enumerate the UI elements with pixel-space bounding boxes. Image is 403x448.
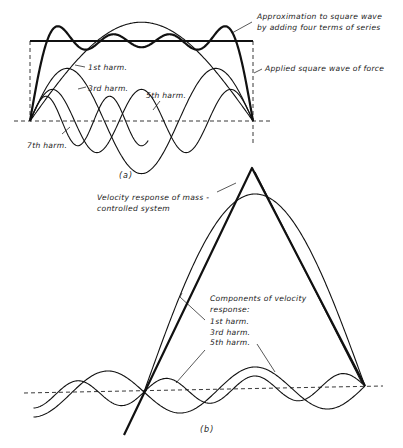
components-label-1: Components of velocity bbox=[210, 294, 307, 303]
first-harm-label: 1st harm. bbox=[88, 63, 127, 72]
velocity-response-label-2: controlled system bbox=[97, 204, 170, 213]
approximation-label-1: Approximation to square wave bbox=[256, 12, 382, 21]
fifth-harm-component-leader bbox=[176, 350, 205, 383]
velocity-right-double-line bbox=[255, 172, 362, 383]
velocity-first-harmonic-curve bbox=[144, 194, 365, 392]
first-harm-leader bbox=[75, 65, 85, 67]
velocity-response-label-1: Velocity response of mass - bbox=[97, 193, 209, 202]
components-first-harm-label: 1st harm. bbox=[210, 317, 249, 326]
seventh-harmonic-curve bbox=[30, 96, 148, 145]
components-third-harm-label: 3rd harm. bbox=[210, 328, 250, 337]
part-b-caption: (b) bbox=[200, 425, 214, 434]
seventh-harm-label: 7th harm. bbox=[27, 141, 67, 150]
fifth-harm-label: 5th harm. bbox=[146, 91, 186, 100]
part-a-diagram: Approximation to square wave by adding f… bbox=[14, 12, 384, 180]
first-harm-component-leader bbox=[180, 293, 205, 320]
third-harm-leader bbox=[78, 87, 86, 89]
approximation-leader bbox=[232, 22, 252, 33]
seventh-harm-leader bbox=[62, 127, 70, 134]
first-harmonic-curve bbox=[30, 22, 253, 121]
third-harm-label: 3rd harm. bbox=[88, 84, 128, 93]
velocity-response-leader bbox=[217, 183, 236, 192]
fifth-harm-leader bbox=[153, 101, 160, 110]
velocity-fifth-harmonic-curve bbox=[34, 374, 366, 408]
components-label-2: response: bbox=[210, 305, 250, 314]
fourier-square-wave-figure: Approximation to square wave by adding f… bbox=[0, 0, 403, 448]
approximation-label-2: by adding four terms of series bbox=[257, 23, 381, 32]
part-a-caption: (a) bbox=[119, 171, 133, 180]
square-wave-label: Applied square wave of force bbox=[264, 64, 384, 73]
part-b-diagram: Velocity response of mass - controlled s… bbox=[24, 168, 383, 435]
square-wave-leader bbox=[254, 69, 262, 73]
components-fifth-harm-label: 5th harm. bbox=[210, 338, 250, 347]
